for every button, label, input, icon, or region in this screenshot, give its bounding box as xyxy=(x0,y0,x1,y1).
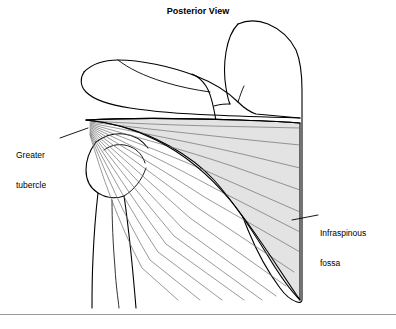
label-greater-tubercle-line1: Greater xyxy=(16,150,46,160)
leader-line-greater-tubercle xyxy=(60,128,88,138)
label-greater-tubercle-line2: tubercle xyxy=(16,180,46,190)
spine-lower-edge xyxy=(81,72,300,118)
humerus-crest-line xyxy=(124,168,146,196)
bottom-divider xyxy=(0,314,396,315)
scapula-spine xyxy=(81,60,300,118)
infraspinatus-muscle xyxy=(86,119,300,301)
humerus-shaft-left xyxy=(92,193,98,308)
scapula-notch xyxy=(214,104,230,106)
label-infraspinous-fossa-line2: fossa xyxy=(320,258,366,268)
label-infraspinous-fossa-line1: Infraspinous xyxy=(320,228,366,238)
spine-base-line xyxy=(238,86,244,102)
figure-canvas: Posterior View xyxy=(0,0,396,329)
humerus-outline xyxy=(86,134,148,308)
label-infraspinous-fossa: Infraspinous fossa xyxy=(320,208,366,288)
label-greater-tubercle: Greater tubercle xyxy=(16,130,46,210)
